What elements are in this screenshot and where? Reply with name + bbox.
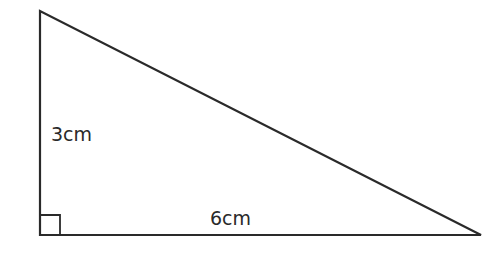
base-label: 6cm [210,207,251,229]
height-label: 3cm [51,123,92,145]
right-triangle-diagram: 3cm 6cm [0,0,497,253]
triangle [40,11,481,235]
right-angle-marker [40,215,60,235]
